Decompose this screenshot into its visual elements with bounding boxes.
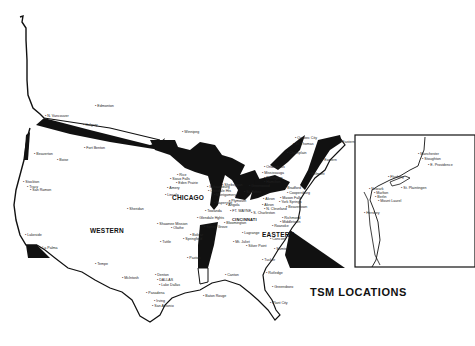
city-label: S. Charleston <box>251 211 275 215</box>
city-label: San Antonio <box>152 304 174 308</box>
city-label: Mississauga <box>262 171 284 175</box>
city-label: Towanda <box>205 209 222 213</box>
city-label: Greensboro <box>272 285 293 289</box>
city-label: Baton Rouge <box>203 294 226 298</box>
region-label: EASTERN <box>262 231 294 238</box>
city-label: St. Johns <box>244 190 261 194</box>
region-label: WESTERN <box>90 227 124 234</box>
louisiana-outline <box>198 268 208 284</box>
city-label: Eastern <box>340 140 355 144</box>
city-label: FT. WAYNE <box>230 209 251 213</box>
city-label: Angola <box>226 203 239 207</box>
city-label: Winnipeg <box>182 130 199 134</box>
city-label: Montgomery <box>214 193 236 197</box>
city-label: Amery <box>167 186 180 190</box>
city-label: Eden Prairie <box>176 181 198 185</box>
city-label: Glendale Hghts <box>197 216 224 220</box>
city-label: Sheridan <box>127 207 144 211</box>
city-label: Sumter <box>274 247 288 251</box>
city-label: Canton <box>225 273 239 277</box>
city-label: Ondenhaus <box>264 165 285 169</box>
city-label: Belmont <box>309 172 324 176</box>
region-label: CHICAGO <box>172 194 204 201</box>
city-label: Stoughton <box>422 157 441 161</box>
city-label: La Palma <box>40 246 57 250</box>
city-label: Edmonton <box>95 104 114 108</box>
city-label: Tuttle <box>160 240 171 244</box>
oregon-black <box>24 132 30 160</box>
city-label: Silver Point <box>246 244 266 248</box>
city-label: E. Providence <box>428 163 453 167</box>
city-label: Boise <box>57 158 68 162</box>
city-label: Springfield <box>183 237 202 241</box>
city-label: Paxton <box>187 256 200 260</box>
city-label: Manchester <box>418 152 439 156</box>
city-label: Greenwood <box>249 184 270 188</box>
city-label: Denton <box>155 273 169 277</box>
city-label: Roanoke <box>272 224 289 228</box>
city-label: Flushing <box>388 175 404 179</box>
northeast-inset-frame <box>355 135 475 267</box>
city-label: Beaverton <box>34 152 53 156</box>
city-label: Coopersburg <box>287 191 310 195</box>
city-label: Lakeside <box>25 233 42 237</box>
city-label: Spring Grove <box>204 225 227 229</box>
city-label: Lake Dallas <box>159 283 180 287</box>
city-label: Eastern <box>322 158 337 162</box>
city-label: McIntosh <box>122 276 139 280</box>
region-label: CINCINNATI <box>232 217 257 222</box>
city-label: Hershey <box>364 211 380 215</box>
city-label: Calgary <box>83 123 98 127</box>
city-label: Tucker <box>262 258 275 262</box>
city-label: Akron <box>263 197 275 201</box>
city-label: Quebec City <box>295 136 317 140</box>
city-label: St. Thomas <box>293 142 314 146</box>
city-label: York Springs <box>279 200 302 204</box>
city-label: Sheboygan <box>222 183 242 187</box>
city-label: Mount Laurel <box>378 199 401 203</box>
pacific-coast-canada <box>20 16 44 118</box>
city-label: Lagrange <box>242 231 259 235</box>
city-label: Fort Benton <box>84 146 105 150</box>
city-label: Bradford <box>285 186 301 190</box>
city-label: St. Plaintingen <box>401 186 426 190</box>
city-label: N. Vancouver <box>45 114 69 118</box>
city-label: Pasadena <box>146 291 164 295</box>
city-label: DALLAS <box>157 278 173 282</box>
city-label: Beavertown <box>286 205 307 209</box>
city-label: Irving <box>154 299 165 303</box>
city-label: San Ramon <box>30 188 51 192</box>
city-label: Tempe <box>95 262 108 266</box>
map-title: TSM LOCATIONS <box>310 286 407 298</box>
city-label: Stockton <box>23 180 39 184</box>
city-label: Plant City <box>270 301 288 305</box>
gulf-coast <box>37 245 250 322</box>
city-label: Olathe <box>171 226 184 230</box>
city-label: Rutledge <box>266 271 283 275</box>
city-label: Champlain <box>287 151 306 155</box>
